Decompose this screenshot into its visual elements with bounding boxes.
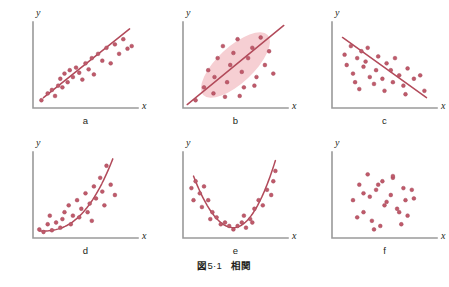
data-point [246, 56, 250, 60]
data-point [412, 77, 416, 81]
data-point [50, 88, 54, 92]
panel-label-c: c [382, 115, 387, 126]
data-point [355, 56, 359, 60]
data-point [197, 191, 201, 195]
data-point [60, 217, 64, 221]
data-point [75, 198, 79, 202]
data-points [189, 169, 277, 231]
axis-label-y: y [185, 137, 191, 148]
data-point [193, 98, 197, 102]
panel-label-e: e [232, 245, 237, 256]
data-point [381, 179, 385, 183]
data-point [90, 56, 94, 60]
data-point [383, 203, 387, 207]
data-point [58, 226, 62, 230]
data-points [37, 164, 116, 234]
data-point [263, 63, 267, 67]
scatter-plot-e: yxe [150, 130, 300, 260]
data-point [256, 198, 260, 202]
data-points [39, 37, 133, 102]
data-point [121, 37, 125, 41]
data-point [215, 56, 219, 60]
data-point [248, 217, 252, 221]
data-point [244, 226, 248, 230]
data-point [223, 221, 227, 225]
data-point [397, 210, 401, 214]
data-point [376, 55, 380, 59]
data-point [113, 42, 117, 46]
data-point [404, 92, 408, 96]
data-point [343, 53, 347, 57]
data-point [74, 66, 78, 70]
data-point [225, 80, 229, 84]
caption-label: 図 [197, 260, 207, 271]
data-point [351, 72, 355, 76]
data-point [400, 222, 404, 226]
figure-caption: 図5·1相関 [0, 258, 449, 272]
data-point [46, 222, 50, 226]
data-point [402, 84, 406, 88]
data-point [92, 73, 96, 77]
data-point [271, 72, 275, 76]
data-point [358, 183, 362, 187]
data-point [360, 49, 364, 53]
data-point [221, 44, 225, 48]
scatter-plot-b: yxb [150, 0, 300, 130]
data-point [202, 185, 206, 189]
data-point [269, 193, 273, 197]
data-point [404, 198, 408, 202]
data-point [66, 80, 70, 84]
panel-label-a: a [83, 115, 89, 126]
axis-label-y: y [35, 7, 41, 18]
data-point [265, 188, 269, 192]
data-point [63, 72, 67, 76]
data-point [42, 230, 46, 234]
data-point [210, 210, 214, 214]
data-point [86, 210, 90, 214]
panel-label-f: f [383, 245, 386, 256]
data-point [372, 82, 376, 86]
panel-f: yxf [299, 130, 449, 260]
axis-label-x: x [291, 230, 297, 241]
data-point [96, 52, 100, 56]
data-point [242, 214, 246, 218]
data-point [366, 46, 370, 50]
data-point [100, 59, 104, 63]
data-point [227, 224, 231, 228]
data-point [362, 210, 366, 214]
data-point [206, 68, 210, 72]
data-point [92, 185, 96, 189]
axes-line [332, 152, 437, 238]
data-point [79, 207, 83, 211]
data-point [58, 77, 62, 81]
data-point [250, 46, 254, 50]
scatter-plot-c: yxc [299, 0, 449, 130]
panel-b: yxb [150, 0, 300, 130]
data-point [389, 68, 393, 72]
data-point [395, 207, 399, 211]
scatter-plot-f: yxf [299, 130, 449, 260]
data-point [258, 36, 262, 40]
data-point [383, 89, 387, 93]
trend-line [343, 37, 427, 97]
data-point [46, 91, 50, 95]
data-point [50, 228, 54, 232]
data-point [362, 65, 366, 69]
data-point [372, 227, 376, 231]
data-point [100, 190, 104, 194]
axis-label-y: y [334, 7, 340, 18]
data-point [362, 191, 366, 195]
axis-label-x: x [440, 100, 446, 111]
data-point [273, 169, 277, 173]
axis-label-y: y [185, 7, 191, 18]
data-point [410, 188, 414, 192]
trend-exponential [39, 159, 112, 231]
data-point [368, 75, 372, 79]
data-point [368, 195, 372, 199]
data-point [126, 47, 130, 51]
data-point [208, 217, 212, 221]
data-point [84, 61, 88, 65]
data-point [109, 61, 113, 65]
data-point [94, 197, 98, 201]
trend-line [187, 25, 284, 104]
